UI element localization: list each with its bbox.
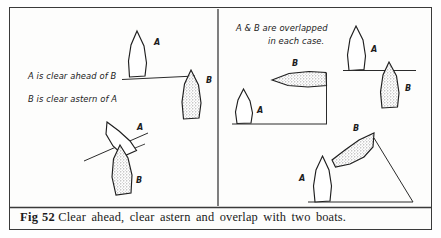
diagram-drawing xyxy=(0,0,441,238)
boat-b-hull xyxy=(272,72,327,88)
left-case-upright-pair xyxy=(122,31,201,119)
label-boat-a-left-case-2: A xyxy=(137,123,143,132)
right-note-line-1: A & B are overlapped xyxy=(236,23,328,33)
label-boat-b-right-case-2: B xyxy=(405,84,411,93)
right-case-beam-on-pair xyxy=(232,72,327,125)
stern-tick xyxy=(135,144,145,148)
label-boat-b-left-case-2: B xyxy=(136,176,142,185)
boat-a-hull xyxy=(348,26,366,71)
boat-a-hull xyxy=(236,89,253,124)
boat-b-hull xyxy=(332,133,374,167)
label-boat-a-right-case-2: A xyxy=(371,45,377,54)
boat-a-hull xyxy=(314,156,332,202)
label-boat-b-left-case-1: B xyxy=(206,76,212,85)
left-note-line-2: B is clear astern of A xyxy=(28,94,117,104)
label-boat-a-right-case-3: A xyxy=(299,174,305,183)
label-boat-b-right-case-3: B xyxy=(353,124,359,133)
right-case-diagonal-pair xyxy=(308,133,413,202)
figure-container: A is clear ahead of B B is clear astern … xyxy=(0,0,441,238)
label-boat-b-right-case-1: B xyxy=(292,59,298,68)
boat-a-hull xyxy=(129,31,147,77)
label-boat-a-right-case-1: A xyxy=(257,106,263,115)
label-boat-a-left-case-1: A xyxy=(154,38,160,47)
boat-b-hull xyxy=(182,70,201,119)
caption-figure-text: Clear ahead, clear astern and overlap wi… xyxy=(58,210,346,224)
reference-line-diagonal xyxy=(374,138,413,202)
caption-figure-number: Fig 52 xyxy=(20,210,55,224)
right-note-line-2: in each case. xyxy=(268,36,324,46)
figure-caption: Fig 52 Clear ahead, clear astern and ove… xyxy=(20,210,420,225)
left-note-line-1: A is clear ahead of B xyxy=(28,71,116,81)
right-case-staggered-pair xyxy=(343,26,416,108)
boat-b-hull xyxy=(381,62,400,108)
